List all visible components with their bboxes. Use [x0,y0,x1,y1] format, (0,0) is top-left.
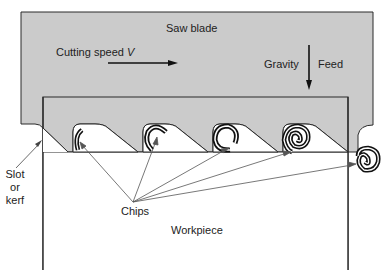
chips-label: Chips [121,205,149,218]
feed-label: Feed [318,58,343,71]
slot-label: Slot or kerf [2,168,28,207]
chip-5 [358,148,378,170]
cutting-speed-var: V [127,46,134,58]
slot-label-line2: or [2,181,28,194]
saw-blade-title: Saw blade [166,22,217,35]
slot-label-line1: Slot [2,168,28,181]
slot-pointer [16,140,42,168]
workpiece-label: Workpiece [171,224,223,237]
cutting-speed-text: Cutting speed [56,46,124,58]
slot-label-line3: kerf [2,194,28,207]
gravity-label: Gravity [264,58,299,71]
cutting-speed-label: Cutting speed V [56,46,134,59]
